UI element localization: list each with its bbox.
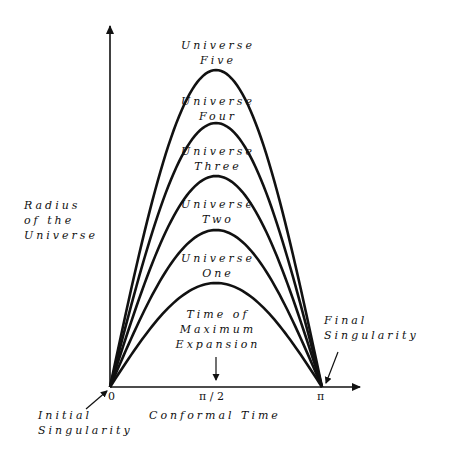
final-singularity-arrow bbox=[326, 352, 338, 383]
label-universe-five: UniverseFive bbox=[181, 38, 255, 68]
initial-singularity-arrow bbox=[86, 391, 107, 409]
x-tick-pi: π bbox=[317, 390, 324, 403]
label-universe-one: UniverseOne bbox=[181, 251, 255, 281]
label-universe-two: UniverseTwo bbox=[181, 197, 255, 227]
x-tick-half-pi: π / 2 bbox=[199, 390, 224, 403]
label-universe-four: UniverseFour bbox=[181, 94, 255, 124]
y-axis-label: Radius of the Universe bbox=[24, 198, 98, 243]
cosmology-diagram: UniverseFive UniverseFour UniverseThree … bbox=[0, 0, 451, 462]
label-final-singularity: Final Singularity bbox=[324, 313, 419, 343]
label-max-expansion: Time of Maximum Expansion bbox=[176, 307, 261, 352]
x-axis-label: Conformal Time bbox=[149, 408, 281, 423]
x-tick-zero: 0 bbox=[108, 390, 115, 403]
label-initial-singularity: Initial Singularity bbox=[38, 408, 133, 438]
label-universe-three: UniverseThree bbox=[181, 144, 255, 174]
